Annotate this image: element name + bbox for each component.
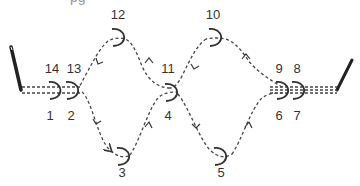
node-label-2: 2 (67, 109, 74, 122)
hook-5 (214, 148, 226, 165)
node-label-6: 6 (275, 109, 282, 122)
node-label-7: 7 (293, 109, 300, 122)
node-label-3: 3 (118, 166, 125, 179)
diagram-canvas (0, 0, 360, 186)
stitch-diagram: pg (0, 0, 360, 186)
left-needle-icon (11, 47, 21, 90)
node-label-1: 1 (46, 109, 53, 122)
node-label-4: 4 (164, 109, 171, 122)
left-threads (22, 87, 80, 93)
hook-12 (112, 29, 124, 46)
node-label-8: 8 (293, 62, 300, 75)
right-needle-icon (337, 60, 352, 90)
node-label-12: 12 (111, 8, 125, 21)
node-label-11: 11 (161, 62, 175, 75)
node-label-10: 10 (206, 8, 220, 21)
node-label-9: 9 (275, 62, 282, 75)
hook-2-13 (66, 82, 78, 99)
node-label-5: 5 (217, 166, 224, 179)
thread-path (78, 38, 282, 157)
node-label-14: 14 (45, 62, 59, 75)
hook-1-14 (49, 82, 60, 99)
node-label-13: 13 (67, 62, 81, 75)
hooks (49, 29, 304, 165)
